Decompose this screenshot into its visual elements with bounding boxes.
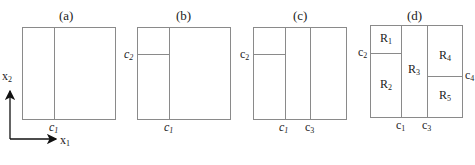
label-c2: c2 <box>358 46 367 62</box>
region-r5: R5 <box>439 89 451 105</box>
panel-b <box>137 27 231 120</box>
label-c1: c1 <box>164 121 173 137</box>
label-c2: c2 <box>124 48 133 64</box>
label-c1: c1 <box>279 121 288 137</box>
split-c2 <box>371 53 401 54</box>
label-c4: c4 <box>465 69 474 85</box>
region-r3: R3 <box>408 63 420 79</box>
x1-axis-label: x1 <box>60 134 70 150</box>
region-r2: R2 <box>380 78 392 94</box>
split-c4 <box>427 76 462 77</box>
region-r4: R4 <box>439 49 451 65</box>
panel-c-title: (c) <box>293 9 307 22</box>
split-c3 <box>310 28 311 119</box>
split-c1 <box>54 28 55 119</box>
region-r1: R1 <box>380 32 392 48</box>
panel-a <box>22 27 116 120</box>
label-c1: c1 <box>49 121 58 137</box>
split-c1 <box>285 28 286 119</box>
panel-d: R1 R2 R3 R4 R5 <box>370 25 463 118</box>
label-c2: c2 <box>240 48 249 64</box>
label-c3: c3 <box>422 119 431 135</box>
split-c1 <box>401 26 402 117</box>
panel-a-title: (a) <box>59 9 73 22</box>
split-c3 <box>427 26 428 117</box>
panel-d-title: (d) <box>407 9 422 22</box>
split-c2 <box>138 54 169 55</box>
label-c1: c1 <box>396 119 405 135</box>
panel-b-title: (b) <box>176 9 191 22</box>
panel-c <box>253 27 347 120</box>
label-c3: c3 <box>305 121 314 137</box>
split-c2 <box>254 54 285 55</box>
split-c1 <box>169 28 170 119</box>
x2-axis-label: x2 <box>2 70 12 86</box>
